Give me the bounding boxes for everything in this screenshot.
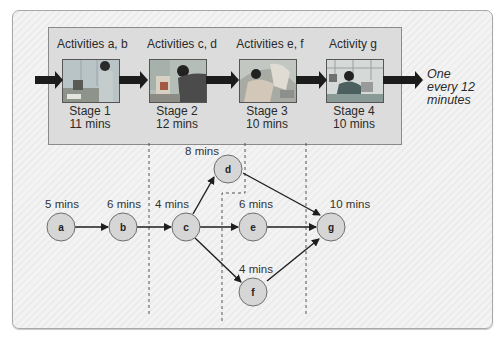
node-e-duration: 6 mins (239, 198, 273, 210)
flow-arrows (35, 71, 423, 89)
node-b-label: b (120, 222, 126, 233)
node-a-duration: 5 mins (45, 198, 79, 210)
output-arrow-icon (383, 71, 423, 89)
node-g-duration: 10 mins (330, 198, 371, 210)
edge-c-d (193, 177, 214, 214)
edge-f-g (267, 239, 319, 281)
node-d-duration: 8 mins (185, 145, 219, 157)
node-b-duration: 6 mins (107, 198, 141, 210)
edge-c-f (195, 238, 241, 282)
node-e-label: e (250, 222, 256, 233)
flow-arrow-icon (206, 71, 239, 89)
node-d-label: d (225, 164, 231, 175)
node-a-label: a (58, 222, 64, 233)
node-g-label: g (328, 222, 334, 233)
network-nodes (47, 155, 345, 306)
input-arrow-icon (35, 71, 63, 89)
node-c-label: c (183, 222, 189, 233)
flow-arrow-icon (119, 71, 148, 89)
node-c-duration: 4 mins (155, 198, 189, 210)
flow-arrow-icon (296, 71, 327, 89)
node-f-duration: 4 mins (239, 263, 273, 275)
diagram-graphics: a b c d e f g 5 mins 6 mins 4 mins 8 min… (0, 0, 502, 342)
